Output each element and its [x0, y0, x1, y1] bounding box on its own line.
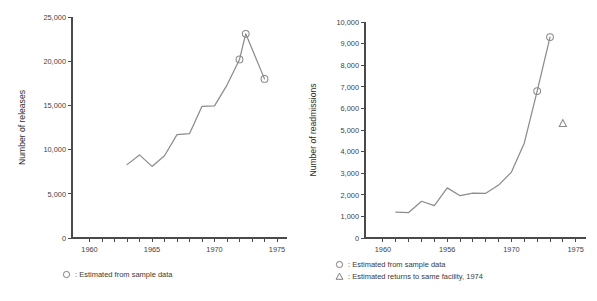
plot-area-readmissions: 01,0002,0003,0004,0005,0006,0007,0008,00… — [299, 0, 597, 258]
x-tick-label: 1960 — [81, 245, 97, 254]
y-tick-label: 5,000 — [341, 126, 360, 135]
y-axis-title: Number of releases — [17, 90, 27, 165]
y-tick-label: 25,000 — [43, 13, 66, 22]
y-tick-label: 0 — [62, 234, 66, 243]
y-axis-title: Number of readmissions — [308, 83, 318, 176]
y-tick-label: 8,000 — [341, 61, 360, 70]
y-tick-label: 0 — [355, 234, 359, 243]
x-tick-label: 1960 — [375, 245, 391, 254]
y-tick-label: 15,000 — [43, 101, 66, 110]
x-tick-label: 1975 — [567, 245, 583, 254]
chart-releases: 05,00010,00015,00020,00025,0001960196519… — [0, 0, 298, 258]
triangle-marker-icon — [559, 120, 566, 127]
x-tick-label: 1970 — [503, 245, 519, 254]
x-tick-label: 1956 — [439, 245, 455, 254]
triangle-marker-icon — [335, 272, 344, 281]
y-tick-label: 1,000 — [341, 212, 360, 221]
axis-lines — [72, 17, 287, 238]
x-axis-title: Year — [171, 256, 189, 258]
x-tick-label: 1965 — [144, 245, 160, 254]
circle-marker-icon — [335, 260, 344, 269]
chart-readmissions: 01,0002,0003,0004,0005,0006,0007,0008,00… — [299, 0, 597, 258]
legend-label: : Estimated returns to same facility, 19… — [348, 272, 483, 281]
y-tick-label: 5,000 — [48, 190, 67, 199]
data-series-line — [127, 34, 265, 167]
axis-lines — [365, 22, 586, 238]
plot-area-releases: 05,00010,00015,00020,00025,0001960196519… — [0, 0, 298, 258]
y-tick-label: 4,000 — [341, 147, 360, 156]
data-series-line — [396, 37, 550, 212]
figure-readmissions: 01,0002,0003,0004,0005,0006,0007,0008,00… — [299, 0, 597, 301]
x-tick-label: 1975 — [269, 245, 285, 254]
legend-label: : Estimated from sample data — [348, 260, 446, 269]
y-tick-label: 3,000 — [341, 169, 360, 178]
y-tick-label: 10,000 — [43, 145, 66, 154]
circle-marker-icon — [62, 270, 71, 279]
x-tick-label: 1970 — [206, 245, 222, 254]
legend-releases: : Estimated from sample data — [0, 268, 298, 280]
y-tick-label: 9,000 — [341, 39, 360, 48]
y-tick-label: 10,000 — [336, 18, 359, 27]
y-tick-label: 6,000 — [341, 104, 360, 113]
legend-entry: : Estimated returns to same facility, 19… — [299, 270, 597, 282]
y-tick-label: 7,000 — [341, 83, 360, 92]
legend-entry: : Estimated from sample data — [299, 258, 597, 270]
figure-releases: 05,00010,00015,00020,00025,0001960196519… — [0, 0, 298, 301]
y-tick-label: 2,000 — [341, 191, 360, 200]
y-tick-label: 20,000 — [43, 57, 66, 66]
legend-entry: : Estimated from sample data — [0, 268, 298, 280]
legend-label: : Estimated from sample data — [75, 270, 173, 279]
legend-readmissions: : Estimated from sample data: Estimated … — [299, 258, 597, 282]
